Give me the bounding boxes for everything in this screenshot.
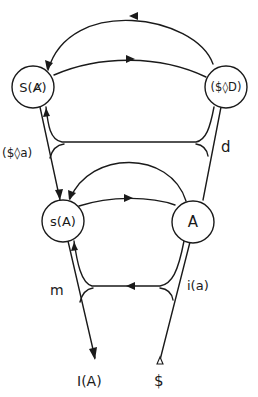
left-upper-inner-arrow — [43, 108, 50, 117]
subject-open-arrow — [157, 357, 163, 364]
upper-bar-lower-right — [196, 144, 208, 156]
node-signified-label: s(A) — [50, 214, 76, 229]
left-upper-line-inner — [46, 107, 214, 142]
left-upper-line-outer — [40, 107, 60, 200]
label-desire: d — [221, 138, 231, 156]
graph-of-desire-diagram: S(Ⱥ) ($◊D) s(A) A ($◊a) d m i(a) I(A) $ — [0, 0, 258, 397]
lower-bar-under-right — [160, 288, 173, 300]
lower-outer-arc — [70, 162, 186, 201]
node-other-label: A — [188, 213, 199, 231]
label-ego: m — [50, 282, 64, 298]
node-s-barred-a-label: S(Ⱥ) — [19, 80, 46, 95]
upper-outer-arc-arrow — [129, 12, 138, 20]
right-lower-line-outer — [160, 242, 190, 360]
node-drive: ($◊D) — [205, 66, 247, 108]
label-image: i(a) — [187, 278, 209, 293]
label-fantasy: ($◊a) — [2, 146, 32, 160]
lower-inner-arc-arrow — [124, 194, 133, 202]
node-other: A — [172, 201, 214, 243]
upper-bar-lower-left — [50, 144, 64, 158]
label-ego-ideal: I(A) — [77, 373, 102, 389]
ego-ideal-arrow — [89, 347, 97, 360]
upper-inner-arc-arrow — [126, 55, 135, 63]
left-lower-line-outer — [68, 241, 95, 358]
left-lower-line-inner — [74, 241, 184, 286]
node-s-barred-a: S(Ⱥ) — [12, 66, 54, 108]
lower-bar-arrow — [126, 282, 135, 290]
node-signified: s(A) — [42, 200, 84, 242]
upper-outer-arc — [48, 20, 213, 70]
label-subject: $ — [154, 372, 164, 390]
lower-outer-arc-head — [68, 190, 76, 200]
left-lower-inner-arrow — [71, 242, 78, 251]
right-upper-line-outer — [203, 107, 221, 200]
upper-inner-arc — [54, 60, 206, 77]
node-drive-label: ($◊D) — [211, 80, 242, 94]
